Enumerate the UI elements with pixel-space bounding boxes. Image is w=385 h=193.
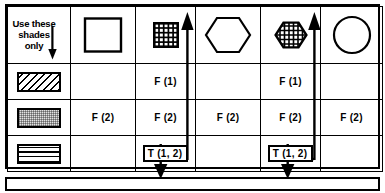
header-hexagon-plain [196, 7, 261, 64]
header-square-grid [136, 7, 196, 64]
cell-label: F (2) [217, 112, 240, 123]
cell-r2-c2[interactable]: F (2) [136, 100, 196, 136]
cell-label: F (2) [154, 112, 177, 123]
cell-r1-c4[interactable]: F (1) [261, 64, 321, 100]
legend-line-2: shades [18, 29, 50, 40]
legend-cell: Use these shades only [8, 7, 71, 64]
header-square-plain [71, 7, 136, 64]
cell-r1-c2[interactable]: F (1) [136, 64, 196, 100]
matrix-table: Use these shades only [7, 6, 383, 172]
cell-r3-c2[interactable]: T (1, 2) [136, 136, 196, 172]
header-circle-plain [321, 7, 383, 64]
cell-r1-c5[interactable] [321, 64, 383, 100]
square-grid-filled-icon [153, 22, 179, 48]
legend: Use these shades only [8, 7, 70, 63]
feature-matrix: Use these shades only [5, 4, 380, 169]
swatch-grid-icon [17, 144, 61, 164]
table-row: F (1) F (1) [8, 64, 383, 100]
cell-r3-c1[interactable] [71, 136, 136, 172]
row-header-shade-crosshatch [8, 136, 71, 172]
cell-label: F (1) [154, 76, 177, 87]
row-header-shade-stipple [8, 100, 71, 136]
circle-outline-icon [332, 15, 372, 55]
swatch-diagonal-hatch-icon [17, 72, 61, 92]
cell-label: F (1) [279, 76, 302, 87]
legend-text: Use these shades only [12, 18, 65, 53]
cell-r1-c1[interactable] [71, 64, 136, 100]
cell-label: F (2) [92, 112, 115, 123]
cell-r3-c5[interactable] [321, 136, 383, 172]
legend-line-3: only [25, 40, 44, 51]
cell-label: F (2) [340, 112, 363, 123]
cell-label-boxed: T (1, 2) [268, 145, 314, 162]
cell-r2-c5[interactable]: F (2) [321, 100, 383, 136]
hexagon-grid-filled-icon [274, 21, 308, 49]
cell-r3-c3[interactable] [196, 136, 261, 172]
cell-r1-c3[interactable] [196, 64, 261, 100]
cell-r3-c4[interactable]: T (1, 2) [261, 136, 321, 172]
square-outline-icon [83, 17, 123, 53]
row-header-shade-diagonal [8, 64, 71, 100]
cell-label: F (2) [279, 112, 302, 123]
swatch-stipple-icon [17, 108, 61, 128]
cell-r2-c3[interactable]: F (2) [196, 100, 261, 136]
bottom-bar [5, 177, 380, 191]
cell-r2-c1[interactable]: F (2) [71, 100, 136, 136]
table-row: T (1, 2) T (1, 2) [8, 136, 383, 172]
header-row: Use these shades only [8, 7, 383, 64]
table-row: F (2) F (2) F (2) F (2) F (2) [8, 100, 383, 136]
header-hexagon-grid [261, 7, 321, 64]
cell-label-boxed: T (1, 2) [143, 145, 189, 162]
arrow-down-icon [48, 26, 57, 60]
diagram-root: Use these shades only [0, 0, 385, 193]
hexagon-outline-icon [204, 16, 252, 54]
cell-r2-c4[interactable]: F (2) [261, 100, 321, 136]
